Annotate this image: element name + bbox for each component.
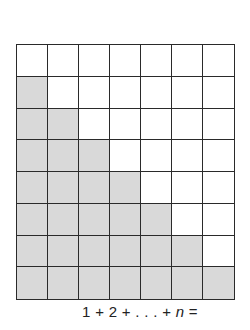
- empty-cell: [203, 77, 234, 109]
- shaded-cell: [203, 267, 234, 299]
- shaded-cell: [79, 236, 110, 268]
- empty-cell: [172, 77, 203, 109]
- shaded-cell: [17, 236, 48, 268]
- shaded-cell: [48, 236, 79, 268]
- empty-cell: [203, 236, 234, 268]
- shaded-cell: [79, 172, 110, 204]
- empty-cell: [141, 77, 172, 109]
- shaded-cell: [48, 140, 79, 172]
- formula-prefix: 1 + 2 + . . . +: [82, 303, 176, 320]
- shaded-cell: [141, 236, 172, 268]
- staircase-grid: [16, 44, 235, 300]
- empty-cell: [141, 172, 172, 204]
- empty-cell: [203, 140, 234, 172]
- shaded-cell: [17, 172, 48, 204]
- empty-cell: [110, 77, 141, 109]
- shaded-cell: [48, 204, 79, 236]
- empty-cell: [172, 45, 203, 77]
- sum-formula-caption: 1 + 2 + . . . + n =: [60, 303, 220, 320]
- shaded-cell: [110, 172, 141, 204]
- shaded-cell: [79, 140, 110, 172]
- empty-cell: [48, 45, 79, 77]
- empty-cell: [203, 109, 234, 141]
- empty-cell: [17, 45, 48, 77]
- shaded-cell: [17, 140, 48, 172]
- shaded-cell: [79, 267, 110, 299]
- shaded-cell: [110, 267, 141, 299]
- empty-cell: [110, 140, 141, 172]
- shaded-cell: [17, 204, 48, 236]
- empty-cell: [203, 172, 234, 204]
- empty-cell: [110, 45, 141, 77]
- shaded-cell: [48, 172, 79, 204]
- shaded-cell: [48, 267, 79, 299]
- shaded-cell: [110, 236, 141, 268]
- shaded-cell: [17, 77, 48, 109]
- shaded-cell: [17, 109, 48, 141]
- empty-cell: [79, 45, 110, 77]
- shaded-cell: [172, 267, 203, 299]
- shaded-cell: [79, 204, 110, 236]
- empty-cell: [79, 109, 110, 141]
- empty-cell: [203, 204, 234, 236]
- empty-cell: [172, 204, 203, 236]
- empty-cell: [110, 109, 141, 141]
- empty-cell: [172, 109, 203, 141]
- empty-cell: [141, 140, 172, 172]
- shaded-cell: [48, 109, 79, 141]
- shaded-cell: [141, 204, 172, 236]
- shaded-cell: [141, 267, 172, 299]
- shaded-cell: [172, 236, 203, 268]
- empty-cell: [48, 77, 79, 109]
- empty-cell: [172, 172, 203, 204]
- shaded-cell: [110, 204, 141, 236]
- shaded-cell: [17, 267, 48, 299]
- empty-cell: [203, 45, 234, 77]
- empty-cell: [79, 77, 110, 109]
- empty-cell: [141, 45, 172, 77]
- empty-cell: [172, 140, 203, 172]
- empty-cell: [141, 109, 172, 141]
- formula-suffix: =: [184, 303, 198, 320]
